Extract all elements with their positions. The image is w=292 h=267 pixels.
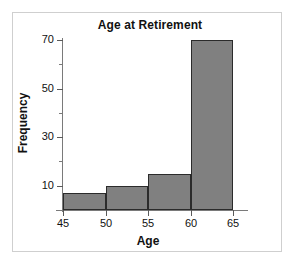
x-tick-label: 45 xyxy=(48,218,78,229)
y-tick-label: 50 xyxy=(26,83,54,94)
x-tick-label: 55 xyxy=(133,218,163,229)
x-axis-line xyxy=(56,210,248,211)
y-axis-title: Frequency xyxy=(16,78,30,168)
y-tick-label: 70 xyxy=(26,34,54,45)
y-tick-label: 30 xyxy=(26,131,54,142)
histogram-bar xyxy=(191,40,234,210)
x-tick-mark xyxy=(191,210,192,216)
plot-area xyxy=(63,40,233,210)
x-tick-mark xyxy=(148,210,149,216)
histogram-bar xyxy=(63,193,106,210)
x-tick-mark xyxy=(106,210,107,216)
x-axis-title: Age xyxy=(63,234,233,248)
chart-title: Age at Retirement xyxy=(40,18,260,32)
x-tick-mark xyxy=(63,210,64,216)
histogram-chart: Age at Retirement 10305070 4550556065 Ag… xyxy=(0,0,292,267)
histogram-bar xyxy=(148,174,191,210)
y-tick-label: 10 xyxy=(26,180,54,191)
x-tick-mark xyxy=(233,210,234,216)
x-tick-label: 50 xyxy=(91,218,121,229)
x-tick-label: 60 xyxy=(176,218,206,229)
x-tick-label: 65 xyxy=(218,218,248,229)
histogram-bar xyxy=(106,186,149,210)
